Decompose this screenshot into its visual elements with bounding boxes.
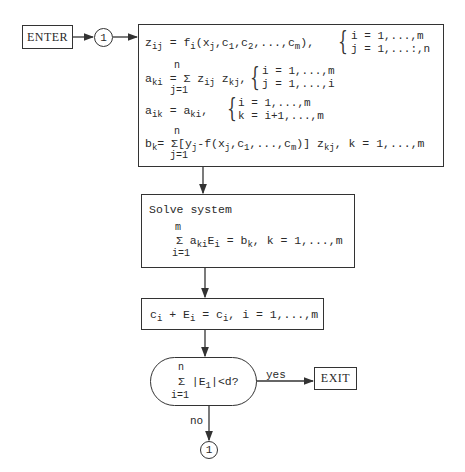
yes-label: yes (266, 370, 286, 381)
exit-box: EXIT (314, 367, 357, 390)
b-k-equation: bk= Σ[yj-f(xj,c1,...,cm)] zkj, k = 1,...… (145, 138, 424, 150)
no-label: no (190, 416, 203, 427)
sum-lower-limit: j=1 (170, 151, 188, 161)
sum-upper-limit: m (175, 223, 181, 233)
sum-upper-limit: n (174, 61, 180, 71)
a-ik-equation: aik = aki, (145, 105, 208, 117)
connector-label: 1 (100, 32, 107, 44)
enter-label: ENTER (23, 26, 72, 48)
connector-circle-bottom: 1 (200, 441, 218, 459)
z-condition-i: i = 1,...,m (351, 31, 424, 42)
sum-upper-limit: n (174, 127, 180, 137)
sum-lower-limit: j=1 (170, 86, 188, 96)
enter-box: ENTER (22, 25, 73, 49)
z-condition-j: j = 1,...:,n (351, 44, 430, 55)
a-ki-condition-j: j = 1,...,i (262, 79, 335, 90)
convergence-test: Σ |E1|<d? (178, 376, 239, 388)
sum-lower-limit: i=1 (171, 391, 189, 401)
a-ik-condition-i: i = 1,...,m (238, 98, 311, 109)
a-ki-condition-i: i = 1,...,m (262, 66, 335, 77)
connector-circle-top: 1 (94, 28, 113, 47)
brace-icon: { (250, 64, 260, 90)
solve-title: Solve system (149, 204, 232, 216)
solve-equation: Σ akiEi = bk, k = 1,...,m (176, 235, 343, 247)
update-equation: ci + Ei = ci, i = 1,...,m (150, 309, 318, 321)
brace-icon: { (338, 28, 348, 54)
a-ik-condition-k: k = i+1,...,m (238, 111, 324, 122)
connector-label: 1 (206, 444, 213, 456)
a-ki-equation: aki = Σ zij zkj, (145, 73, 246, 85)
z-equation: zij = fi(xj,c1,c2,...,cm), (145, 37, 314, 49)
sum-lower-limit: i=1 (172, 249, 190, 259)
brace-icon: { (227, 95, 237, 121)
exit-label: EXIT (315, 368, 356, 389)
sum-upper-limit: n (178, 363, 184, 373)
